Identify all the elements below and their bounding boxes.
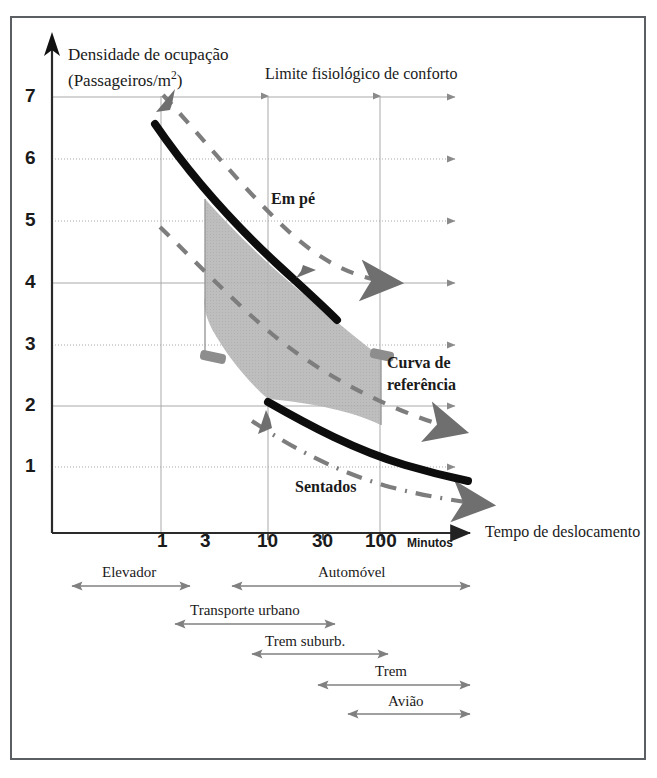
y-axis-title: Densidade de ocupação (Passageiros/m2): [68, 44, 228, 91]
curva-de-referencia-line2: referência: [387, 374, 456, 396]
y-tick-3: 3: [25, 333, 36, 355]
x-tick-3: 3: [200, 530, 211, 552]
mode-label-elevador: Elevador: [102, 564, 156, 581]
reference-curve-upper: [163, 95, 400, 283]
x-axis-title: Tempo de deslocamento: [485, 523, 640, 541]
y-tick-5: 5: [25, 209, 36, 231]
y-tick-1: 1: [25, 455, 36, 477]
y-axis-unit-suffix: ): [177, 71, 183, 90]
chart-canvas: [0, 0, 657, 778]
x-tick-30: 30: [312, 530, 333, 552]
mode-label-trem-suburbano: Trem suburb.: [265, 633, 345, 650]
y-axis-title-line1: Densidade de ocupação: [68, 44, 228, 65]
mode-label-transporte-urbano: Transporte urbano: [190, 602, 300, 619]
annotation-sentados: Sentados: [295, 478, 356, 496]
annotation-limite-fisiologico: Limite fisiológico de conforto: [265, 65, 457, 83]
mode-label-aviao: Avião: [388, 693, 424, 710]
annotation-em-pe: Em pé: [271, 190, 315, 208]
y-axis-unit-prefix: (Passageiros/m: [68, 71, 171, 90]
y-tick-6: 6: [25, 147, 36, 169]
mode-label-automovel: Automóvel: [318, 564, 386, 581]
x-axis-unit: Minutos: [407, 536, 453, 550]
y-tick-7: 7: [25, 85, 36, 107]
curva-de-referencia-line1: Curva de: [387, 352, 456, 374]
y-tick-4: 4: [25, 271, 36, 293]
y-tick-2: 2: [25, 394, 36, 416]
x-tick-10: 10: [257, 530, 278, 552]
y-axis-title-line2: (Passageiros/m2): [68, 65, 228, 91]
reference-curve-dashdot: [252, 421, 492, 505]
mode-label-trem: Trem: [375, 663, 407, 680]
x-tick-1: 1: [157, 530, 168, 552]
annotation-curva-de-referencia: Curva de referência: [387, 352, 456, 396]
figure-root: Densidade de ocupação (Passageiros/m2) L…: [0, 0, 657, 778]
x-tick-100: 100: [365, 530, 397, 552]
shaded-region: [204, 199, 381, 425]
